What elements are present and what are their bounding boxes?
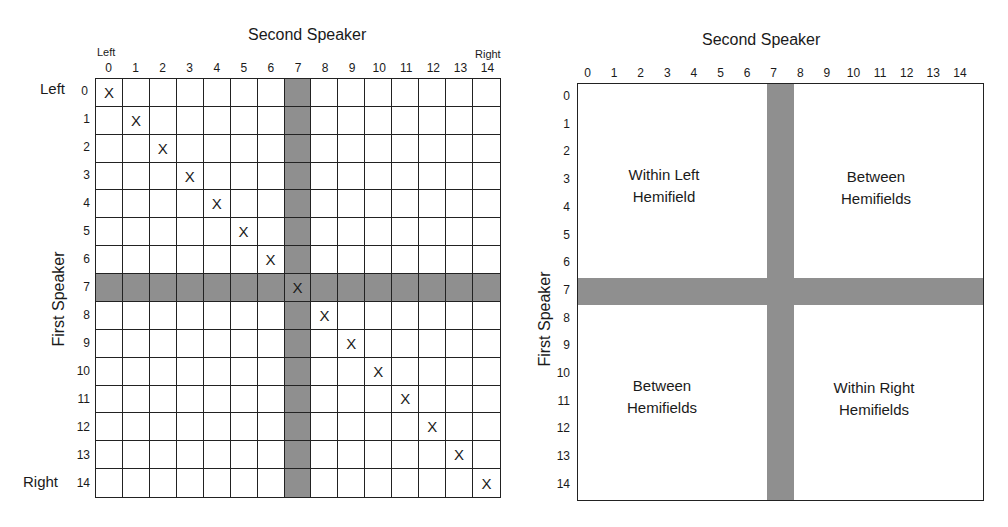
- grid-cell: [285, 358, 312, 386]
- left-col-tick: 7: [284, 61, 311, 75]
- grid-cell: [446, 330, 473, 358]
- grid-cell: [177, 246, 204, 274]
- grid-cell: [96, 163, 123, 191]
- grid-cell: [258, 107, 285, 135]
- grid-cell: [392, 413, 419, 441]
- grid-cell: [419, 386, 446, 414]
- grid-cell: [123, 413, 150, 441]
- grid-cell: [419, 358, 446, 386]
- right-col-tick: 6: [734, 66, 761, 80]
- x-marker: X: [346, 335, 356, 352]
- right-col-tick: 13: [920, 66, 947, 80]
- left-col-tick: 14: [474, 61, 501, 75]
- grid-cell: [177, 330, 204, 358]
- grid-cell: [96, 330, 123, 358]
- right-col-tick: 2: [627, 66, 654, 80]
- grid-cell: X: [123, 107, 150, 135]
- grid-cell: [96, 246, 123, 274]
- grid-cell: [446, 190, 473, 218]
- left-row-tick: 11: [68, 392, 90, 406]
- grid-cell: [285, 107, 312, 135]
- grid-cell: [285, 79, 312, 107]
- x-marker: X: [266, 251, 276, 268]
- grid-cell: [258, 135, 285, 163]
- grid-cell: X: [150, 135, 177, 163]
- left-row-tick: 8: [68, 308, 90, 322]
- grid-cell: [150, 358, 177, 386]
- grid-cell: [446, 246, 473, 274]
- grid-cell: [338, 441, 365, 469]
- grid-cell: [285, 386, 312, 414]
- right-row-tick: 0: [548, 89, 570, 103]
- left-col-tick: 4: [203, 61, 230, 75]
- grid-cell: [285, 218, 312, 246]
- grid-cell: [123, 246, 150, 274]
- grid-cell: X: [258, 246, 285, 274]
- right-row-tick: 2: [548, 144, 570, 158]
- grid-cell: X: [338, 330, 365, 358]
- grid-cell: [150, 386, 177, 414]
- grid-cell: [150, 246, 177, 274]
- grid-cell: [392, 246, 419, 274]
- grid-cell: [150, 469, 177, 497]
- grid-cell: [231, 441, 258, 469]
- right-col-tick: 14: [946, 66, 973, 80]
- grid-cell: [177, 358, 204, 386]
- right-col-tick: 4: [680, 66, 707, 80]
- region-top-right: Between Hemifields: [796, 166, 956, 210]
- grid-cell: [123, 79, 150, 107]
- left-row-tick: 1: [68, 112, 90, 126]
- grid-cell: [338, 358, 365, 386]
- grid-cell: [446, 163, 473, 191]
- grid-cell: [150, 330, 177, 358]
- grid-cell: [204, 386, 231, 414]
- region-bottom-right-line1: Within Right: [794, 377, 954, 399]
- x-marker: X: [185, 168, 195, 185]
- grid-cell: [177, 302, 204, 330]
- left-row-tick: 4: [68, 196, 90, 210]
- grid-cell: [338, 135, 365, 163]
- grid-cell: [231, 330, 258, 358]
- grid-cell: [473, 386, 500, 414]
- grid-cell: [258, 469, 285, 497]
- grid-cell: [150, 441, 177, 469]
- grid-cell: [446, 135, 473, 163]
- grid-cell: [204, 246, 231, 274]
- grid-cell: [177, 413, 204, 441]
- grid-cell: [446, 358, 473, 386]
- grid-cell: [365, 302, 392, 330]
- right-col-tick: 1: [601, 66, 628, 80]
- grid-cell: [365, 107, 392, 135]
- grid-cell: [231, 302, 258, 330]
- grid-cell: [123, 330, 150, 358]
- left-row-tick: 14: [68, 476, 90, 490]
- left-row-tick: 2: [68, 140, 90, 154]
- grid-cell: [473, 441, 500, 469]
- grid-cell: [258, 441, 285, 469]
- grid-cell: [96, 386, 123, 414]
- right-row-tick: 12: [548, 421, 570, 435]
- grid-cell: [231, 246, 258, 274]
- grid-cell: [365, 218, 392, 246]
- grid-cell: [365, 469, 392, 497]
- grid-cell: [96, 441, 123, 469]
- grid-cell: X: [96, 79, 123, 107]
- grid-cell: [473, 163, 500, 191]
- left-y-axis-bottom-end-label: Right: [23, 473, 58, 490]
- grid-cell: [258, 218, 285, 246]
- x-marker: X: [400, 390, 410, 407]
- right-col-tick: 3: [654, 66, 681, 80]
- grid-cell: [392, 107, 419, 135]
- right-col-tick: 7: [760, 66, 787, 80]
- grid-cell: [446, 218, 473, 246]
- right-row-tick: 3: [548, 172, 570, 186]
- left-x-axis-title: Second Speaker: [248, 26, 366, 44]
- grid-cell: [204, 163, 231, 191]
- grid-cell: [96, 469, 123, 497]
- grid-cell: [123, 358, 150, 386]
- grid-cell: [311, 107, 338, 135]
- grid-cell: [96, 302, 123, 330]
- grid-cell: [177, 469, 204, 497]
- grid-cell: [419, 218, 446, 246]
- grid-cell: [365, 246, 392, 274]
